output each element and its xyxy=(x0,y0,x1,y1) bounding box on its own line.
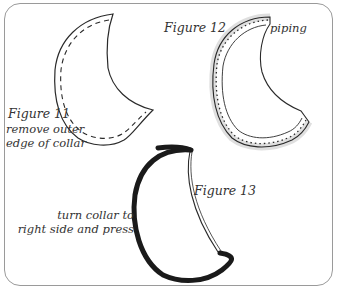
figure-12-title: Figure 12 xyxy=(164,21,226,35)
figure-13-caption-line-1: turn collar to xyxy=(6,208,134,222)
figure-13-collar-shape xyxy=(134,147,231,281)
figure-12-piping-callout: piping xyxy=(270,21,307,35)
figure-13-title: Figure 13 xyxy=(194,184,256,198)
figure-13-caption-line-2: right side and press xyxy=(6,222,134,236)
figure-11-caption-line-2: edge of collar xyxy=(6,136,72,150)
figure-12-collar-shape xyxy=(213,17,309,147)
figure-11-caption-line-1: remove outer xyxy=(6,122,72,136)
figure-11-title: Figure 11 xyxy=(8,107,60,121)
